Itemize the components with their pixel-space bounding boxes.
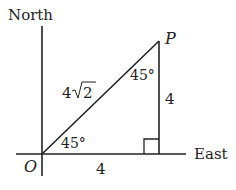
origin-label: O (24, 157, 37, 176)
diagram-svg: North East O P 4 2 4 4 45° 45° (0, 0, 236, 190)
point-p-label: P (164, 29, 176, 48)
hypotenuse-coef: 4 (62, 84, 72, 102)
horizontal-side-label: 4 (96, 160, 106, 178)
angle-origin-label: 45° (61, 135, 86, 151)
bearing-diagram: North East O P 4 2 4 4 45° 45° (0, 0, 236, 190)
hypotenuse-label: 4 2 (62, 82, 96, 102)
east-label: East (194, 145, 228, 163)
vertical-side-label: 4 (165, 90, 175, 108)
hypotenuse-line (42, 41, 159, 154)
north-label: North (8, 6, 53, 24)
right-angle-marker (144, 139, 159, 154)
hypotenuse-radicand: 2 (83, 84, 93, 102)
angle-p-label: 45° (130, 67, 155, 83)
